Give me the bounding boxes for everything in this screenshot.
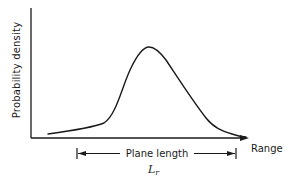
- bracket-right-arrow-icon: [227, 151, 235, 156]
- symbol-subscript: r: [155, 168, 159, 177]
- x-axis-label: Range: [251, 143, 283, 154]
- bracket-left-arrow-icon: [78, 151, 86, 156]
- probability-density-figure: Probability density Range Plane length L…: [0, 0, 290, 182]
- plane-length-label: Plane length: [123, 148, 191, 159]
- density-curve: [48, 47, 246, 137]
- plane-length-symbol: Lr: [148, 163, 159, 177]
- y-axis-label: Probability density: [11, 22, 22, 119]
